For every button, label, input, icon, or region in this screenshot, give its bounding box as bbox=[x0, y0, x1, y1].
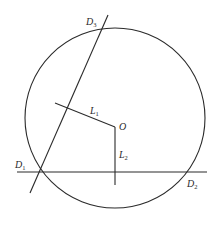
label-center-o: O bbox=[119, 121, 126, 132]
geometry-diagram: D3 D1 D2 L1 O L2 bbox=[0, 0, 217, 229]
label-d3: D3 bbox=[85, 16, 96, 28]
label-l1: L1 bbox=[89, 105, 99, 117]
label-d1: D1 bbox=[14, 159, 25, 171]
label-l2: L2 bbox=[118, 149, 128, 161]
label-d2: D2 bbox=[186, 178, 197, 190]
line-d1-d3 bbox=[30, 15, 108, 193]
